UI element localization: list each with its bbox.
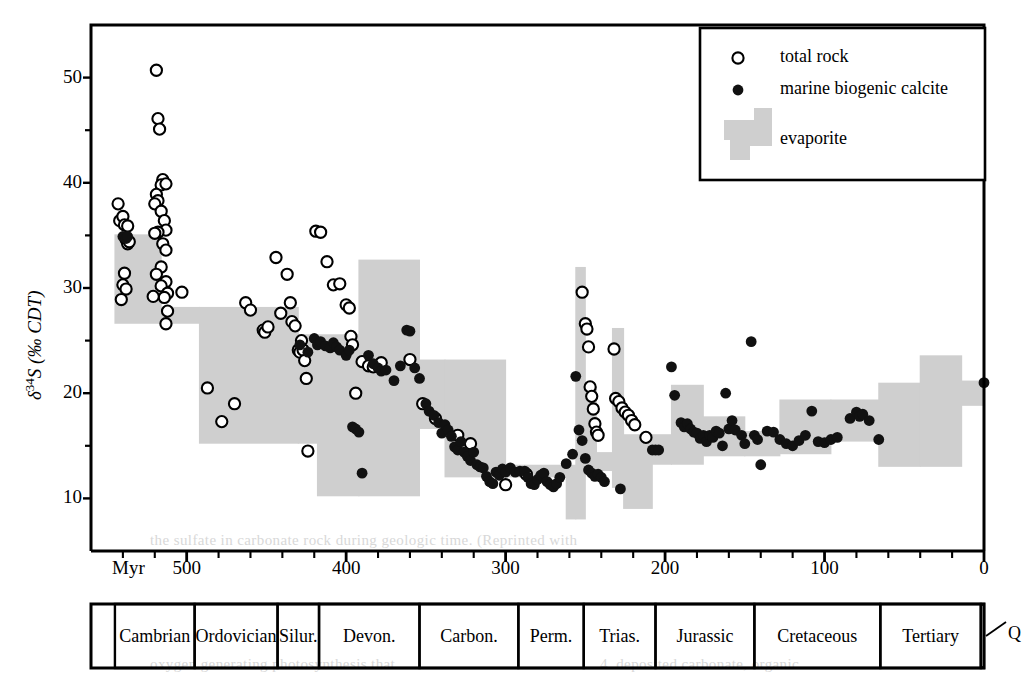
period-label: Cretaceous: [754, 627, 880, 645]
total-rock-point: [583, 341, 594, 352]
total-rock-point: [334, 278, 345, 289]
period-label: Perm.: [518, 627, 583, 645]
total-rock-point: [586, 391, 597, 402]
marine-calcite-point: [720, 388, 731, 399]
y-tick-label: 40: [40, 171, 82, 193]
x-tick-label: 400: [321, 557, 371, 579]
marine-calcite-point: [122, 231, 133, 242]
marine-calcite-point: [405, 326, 416, 337]
total-rock-point: [113, 198, 124, 209]
marine-calcite-point: [567, 449, 578, 460]
marine-calcite-point: [395, 360, 406, 371]
figure-root: the sulfate in carbonate rock during geo…: [0, 0, 1032, 690]
period-label: Ordovician: [195, 627, 278, 645]
total-rock-point: [270, 252, 281, 263]
total-rock-point: [577, 287, 588, 298]
x-tick-label: 500: [162, 557, 212, 579]
total-rock-point: [162, 306, 173, 317]
y-tick-label: 10: [40, 486, 82, 508]
total-rock-point: [202, 382, 213, 393]
legend-item-label: evaporite: [780, 128, 847, 149]
marine-calcite-point: [389, 375, 400, 386]
marine-calcite-point: [666, 362, 677, 373]
marine-calcite-point: [354, 427, 365, 438]
total-rock-point: [592, 430, 603, 441]
marine-calcite-point: [344, 345, 355, 356]
total-rock-point: [116, 294, 127, 305]
x-tick-label: 200: [640, 557, 690, 579]
marine-calcite-point: [800, 430, 811, 441]
total-rock-point: [608, 343, 619, 354]
period-label: Silur.: [278, 627, 319, 645]
total-rock-point: [160, 245, 171, 256]
evaporite-band: [114, 234, 984, 519]
total-rock-point: [350, 388, 361, 399]
total-rock-point: [301, 373, 312, 384]
marine-calcite-point: [669, 390, 680, 401]
x-tick-label: 100: [800, 557, 850, 579]
marine-calcite-point: [864, 415, 875, 426]
marine-calcite-point: [615, 484, 626, 495]
x-tick-label: 0: [959, 557, 1009, 579]
marine-calcite-point: [409, 363, 420, 374]
total-rock-point: [344, 302, 355, 313]
total-rock-point: [302, 445, 313, 456]
evaporite-block: [199, 307, 299, 444]
marine-calcite-point: [574, 425, 585, 436]
evaporite-block: [920, 355, 962, 467]
y-tick-label: 30: [40, 276, 82, 298]
marine-calcite-point: [806, 406, 817, 417]
marine-calcite-point: [739, 438, 750, 449]
total-rock-point: [148, 291, 159, 302]
total-rock-point: [176, 287, 187, 298]
marine-calcite-point: [755, 459, 766, 470]
total-rock-point: [262, 321, 273, 332]
evaporite-block: [623, 434, 653, 509]
total-rock-point: [581, 323, 592, 334]
marine-calcite-point: [653, 445, 664, 456]
total-rock-point: [122, 220, 133, 231]
x-tick-label: 300: [481, 557, 531, 579]
legend-item-label: total rock: [780, 46, 848, 67]
period-label: Jurassic: [656, 627, 755, 645]
legend-filled-circle-icon: [733, 85, 744, 96]
total-rock-point: [282, 269, 293, 280]
evaporite-block: [575, 267, 586, 519]
total-rock-point: [275, 308, 286, 319]
total-rock-point: [640, 432, 651, 443]
total-rock-point: [216, 416, 227, 427]
evaporite-block: [358, 260, 420, 497]
marine-calcite-point: [752, 434, 763, 445]
total-rock-point: [160, 178, 171, 189]
marine-calcite-point: [381, 365, 392, 376]
marine-calcite-point: [599, 476, 610, 487]
marine-calcite-point: [357, 468, 368, 479]
marine-calcite-point: [714, 428, 725, 439]
total-rock-point: [315, 227, 326, 238]
total-rock-point: [588, 403, 599, 414]
marine-calcite-point: [746, 336, 757, 347]
total-rock-point: [229, 398, 240, 409]
marine-calcite-point: [446, 431, 457, 442]
period-label: Cambrian: [115, 627, 195, 645]
total-rock-point: [152, 113, 163, 124]
marine-calcite-point: [456, 436, 467, 447]
total-rock-point: [321, 256, 332, 267]
evaporite-block: [566, 465, 577, 520]
evaporite-block: [878, 383, 920, 467]
total-rock-point: [149, 228, 160, 239]
period-label-q: Q: [1008, 624, 1021, 642]
total-rock-point: [285, 297, 296, 308]
period-label: Trias.: [584, 627, 656, 645]
total-rock-point: [160, 318, 171, 329]
marine-calcite-point: [414, 373, 425, 384]
evaporite-block: [317, 334, 359, 496]
period-label: Tertiary: [880, 627, 980, 645]
y-tick-label: 20: [40, 381, 82, 403]
y-tick-label: 50: [40, 66, 82, 88]
legend-open-circle-icon: [732, 52, 743, 63]
total-rock-point: [500, 479, 511, 490]
total-rock-point: [154, 124, 165, 135]
marine-calcite-point: [832, 432, 843, 443]
chart-canvas: [0, 0, 1032, 690]
